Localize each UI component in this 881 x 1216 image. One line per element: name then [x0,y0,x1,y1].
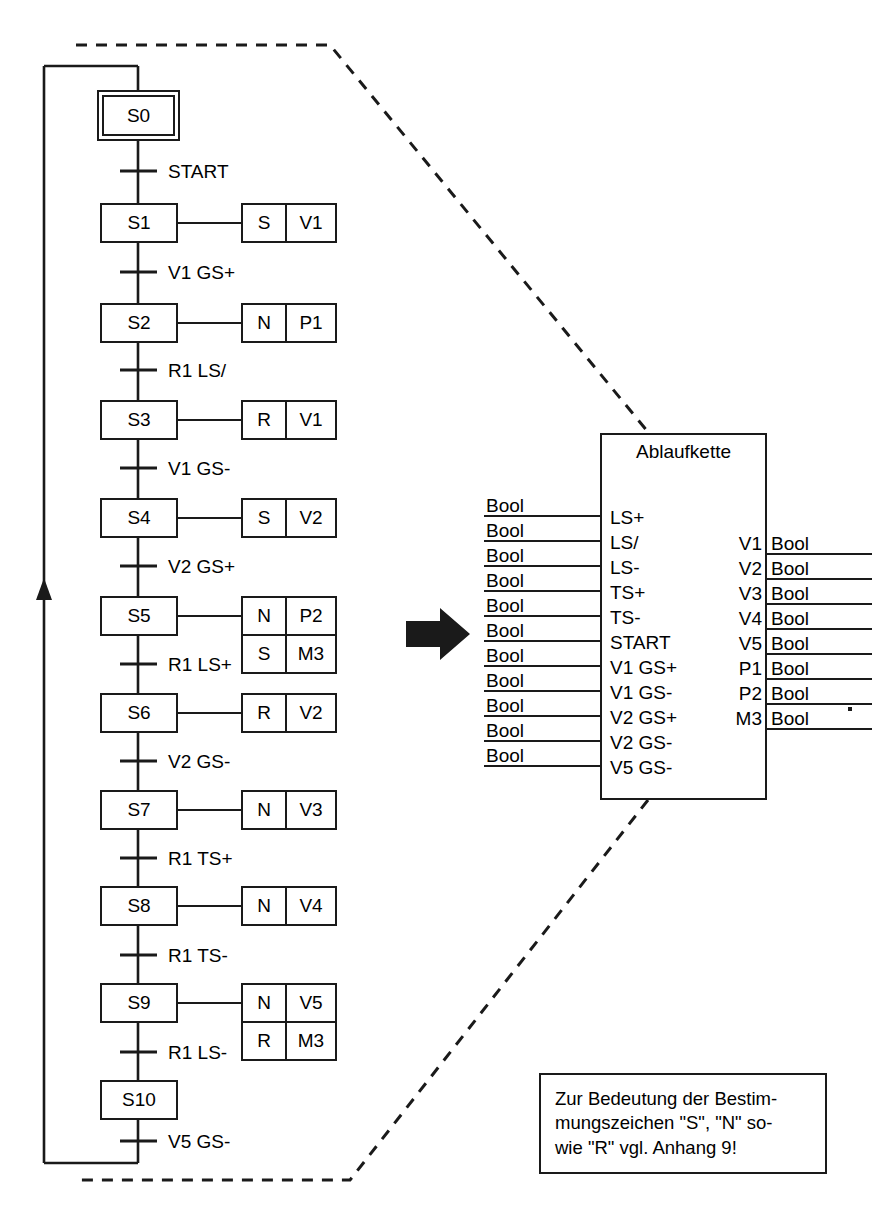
action-target: V5 [287,985,335,1021]
input-pin-v1-gs-plus: V1 GS+ [610,658,677,677]
output-type-5: Bool [771,659,809,678]
action-qualifier: N [243,888,287,924]
step-box-s7[interactable]: S7 [100,790,178,830]
action-qualifier: N [243,305,287,341]
input-type-4: Bool [486,596,524,615]
output-pin-v2: V2 [722,559,762,578]
input-type-8: Bool [486,696,524,715]
input-pin-ls-minus: LS- [610,558,640,577]
output-type-6: Bool [771,684,809,703]
transition-label-s3: V1 GS- [168,459,230,478]
step-label: S5 [127,605,150,627]
function-block-title: Ablaufkette [600,441,767,463]
step-label: S10 [122,1089,156,1111]
transition-label-s10: V5 GS- [168,1132,230,1151]
step-box-s10[interactable]: S10 [100,1080,178,1120]
scan-speck [848,707,852,711]
note-box: Zur Bedeutung der Bestim- mungszeichen "… [539,1073,827,1174]
step-box-s8[interactable]: S8 [100,886,178,926]
action-target: V2 [287,500,335,536]
input-pin-start: START [610,633,671,652]
output-pin-v1: V1 [722,534,762,553]
output-type-7: Bool [771,709,809,728]
input-type-0: Bool [486,496,524,515]
output-pin-p1: P1 [722,659,762,678]
input-type-5: Bool [486,621,524,640]
input-pin-ls-slash: LS/ [610,533,639,552]
action-target: M3 [287,1023,335,1059]
step-label: S4 [127,507,150,529]
action-target: V3 [287,792,335,828]
action-qualifier: S [243,636,287,672]
loop-arrowhead [36,578,52,600]
step-box-s5[interactable]: S5 [100,596,178,636]
input-pin-v5-gs-minus: V5 GS- [610,758,672,777]
action-box-s5-second[interactable]: S M3 [241,634,337,674]
action-target: V2 [287,695,335,731]
transition-label-s8: R1 TS- [168,946,228,965]
action-qualifier: R [243,695,287,731]
action-qualifier: S [243,500,287,536]
step-label: S7 [127,799,150,821]
input-type-9: Bool [486,721,524,740]
step-label: S8 [127,895,150,917]
action-box-s6[interactable]: R V2 [241,693,337,733]
step-box-s3[interactable]: S3 [100,400,178,440]
action-box-s7[interactable]: N V3 [241,790,337,830]
action-qualifier: N [243,792,287,828]
output-type-1: Bool [771,559,809,578]
input-type-6: Bool [486,646,524,665]
input-type-1: Bool [486,521,524,540]
input-pin-ts-minus: TS- [610,608,641,627]
input-type-7: Bool [486,671,524,690]
step-box-s6[interactable]: S6 [100,693,178,733]
input-pin-ts-plus: TS+ [610,583,645,602]
action-box-s3[interactable]: R V1 [241,400,337,440]
step-label: S1 [127,212,150,234]
transition-label-start: START [168,162,229,181]
action-box-s1[interactable]: S V1 [241,203,337,243]
output-type-3: Bool [771,609,809,628]
output-pin-v4: V4 [722,609,762,628]
step-box-s1[interactable]: S1 [100,203,178,243]
action-target: P2 [287,598,335,634]
action-box-s9-first[interactable]: N V5 [241,983,337,1023]
input-pin-v1-gs-minus: V1 GS- [610,683,672,702]
note-line-3: wie "R" vgl. Anhang 9! [555,1136,811,1160]
action-target: V1 [287,402,335,438]
step-box-s4[interactable]: S4 [100,498,178,538]
step-box-s9[interactable]: S9 [100,983,178,1023]
output-pin-p2: P2 [722,684,762,703]
output-pin-m3: M3 [722,709,762,728]
action-qualifier: R [243,402,287,438]
transition-label-s2: R1 LS/ [168,361,226,380]
transition-label-s1: V1 GS+ [168,263,235,282]
step-label: S6 [127,702,150,724]
step-box-s2[interactable]: S2 [100,303,178,343]
input-pin-ls-plus: LS+ [610,508,644,527]
action-target: V4 [287,888,335,924]
action-qualifier: N [243,598,287,634]
action-box-s9-second[interactable]: R M3 [241,1021,337,1061]
output-type-4: Bool [771,634,809,653]
transition-label-s4: V2 GS+ [168,557,235,576]
input-type-10: Bool [486,746,524,765]
action-target: V1 [287,205,335,241]
action-box-s8[interactable]: N V4 [241,886,337,926]
input-pin-v2-gs-plus: V2 GS+ [610,708,677,727]
transition-label-s9: R1 LS- [168,1043,227,1062]
step-box-initial[interactable]: S0 [97,90,180,141]
action-qualifier: R [243,1023,287,1059]
action-box-s4[interactable]: S V2 [241,498,337,538]
input-type-3: Bool [486,571,524,590]
transition-label-s7: R1 TS+ [168,849,233,868]
note-line-2: mungszeichen "S", "N" so- [555,1111,811,1135]
action-box-s5-first[interactable]: N P2 [241,596,337,636]
action-box-s2[interactable]: N P1 [241,303,337,343]
flow-arrow [406,608,470,660]
step-label: S3 [127,409,150,431]
output-pin-v5: V5 [722,634,762,653]
action-target: P1 [287,305,335,341]
output-type-0: Bool [771,534,809,553]
transition-label-s5: R1 LS+ [168,655,232,674]
